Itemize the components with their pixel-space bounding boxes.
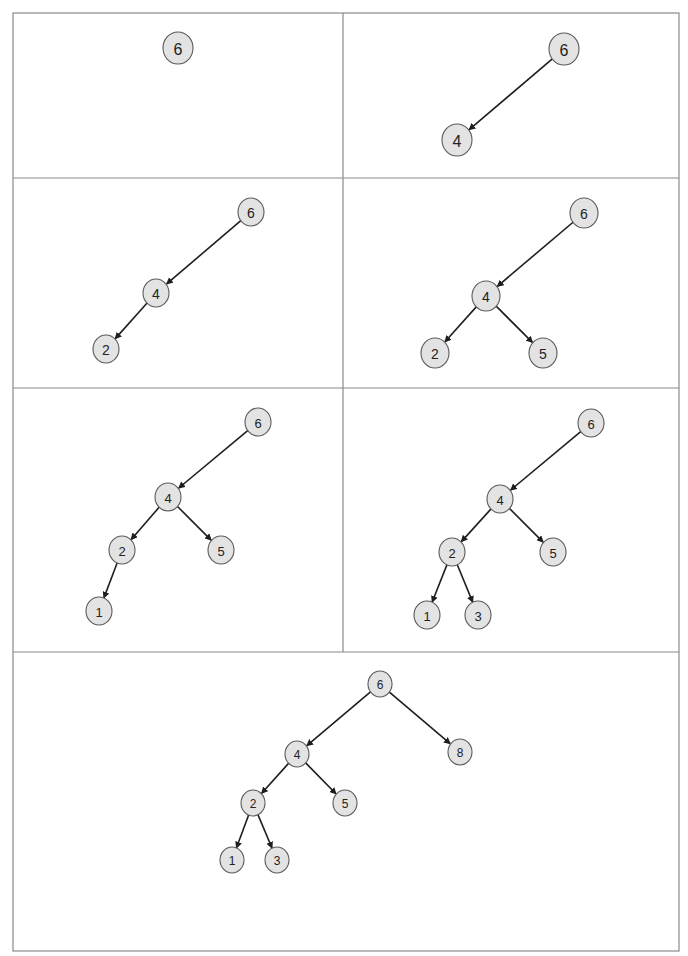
edge-4-to-2 <box>461 509 491 542</box>
node-label: 2 <box>431 346 439 362</box>
tree-node-6: 6 <box>368 671 392 697</box>
tree-node-4: 4 <box>442 124 472 156</box>
tree-node-1: 1 <box>86 597 112 625</box>
node-label: 6 <box>560 42 569 59</box>
node-label: 6 <box>580 206 588 222</box>
tree-panel-step-2: 64 <box>442 33 579 156</box>
tree-node-4: 4 <box>285 741 309 767</box>
edge-6-to-4 <box>167 220 241 284</box>
tree-node-4: 4 <box>143 279 169 307</box>
edge-4-to-2 <box>262 763 289 793</box>
tree-node-6: 6 <box>570 198 598 228</box>
edge-2-to-3 <box>258 814 272 848</box>
tree-node-6: 6 <box>245 408 271 436</box>
node-label: 4 <box>294 748 301 762</box>
tree-node-4: 4 <box>472 281 500 311</box>
node-label: 3 <box>274 854 281 868</box>
tree-panel-step-7: 6482513 <box>220 671 472 873</box>
tree-node-5: 5 <box>208 536 234 564</box>
node-label: 4 <box>164 491 171 506</box>
tree-node-1: 1 <box>220 847 244 873</box>
edge-2-to-3 <box>457 564 473 602</box>
edge-4-to-2 <box>131 507 159 540</box>
node-label: 8 <box>457 746 464 760</box>
tree-node-6: 6 <box>163 32 193 64</box>
tree-node-3: 3 <box>265 847 289 873</box>
node-label: 6 <box>587 417 594 432</box>
edge-6-to-4 <box>497 222 573 286</box>
node-label: 1 <box>423 609 430 624</box>
edge-6-to-4 <box>511 431 581 490</box>
tree-node-1: 1 <box>414 601 440 629</box>
node-label: 2 <box>448 546 455 561</box>
tree-node-2: 2 <box>421 338 449 368</box>
edge-4-to-2 <box>115 303 147 339</box>
edge-4-to-5 <box>496 306 533 343</box>
tree-node-2: 2 <box>93 335 119 363</box>
node-label: 6 <box>247 205 255 221</box>
node-label: 5 <box>539 346 547 362</box>
tree-node-2: 2 <box>439 538 465 566</box>
node-label: 4 <box>453 133 462 150</box>
tree-node-6: 6 <box>549 33 579 65</box>
bst-insertion-diagram: 6646426425642516425136482513 <box>0 0 688 956</box>
tree-node-2: 2 <box>241 790 265 816</box>
node-label: 4 <box>152 286 160 302</box>
tree-node-3: 3 <box>465 601 491 629</box>
node-label: 2 <box>250 797 257 811</box>
edge-2-to-1 <box>104 562 118 598</box>
tree-node-5: 5 <box>540 538 566 566</box>
edge-6-to-4 <box>307 692 371 746</box>
edge-6-to-4 <box>469 59 552 130</box>
tree-node-8: 8 <box>448 739 472 765</box>
edge-6-to-4 <box>179 430 248 488</box>
node-label: 1 <box>95 605 102 620</box>
tree-node-4: 4 <box>487 485 513 513</box>
node-label: 6 <box>174 41 183 58</box>
node-label: 5 <box>549 546 556 561</box>
tree-panel-step-5: 64251 <box>86 408 271 625</box>
node-label: 6 <box>254 416 261 431</box>
tree-node-6: 6 <box>578 409 604 437</box>
tree-node-6: 6 <box>238 198 264 226</box>
node-label: 4 <box>496 493 503 508</box>
edge-4-to-5 <box>509 508 543 542</box>
node-label: 3 <box>474 609 481 624</box>
node-label: 1 <box>229 854 236 868</box>
node-label: 2 <box>118 544 125 559</box>
edge-2-to-1 <box>237 814 249 848</box>
edge-4-to-5 <box>177 506 211 540</box>
tree-node-2: 2 <box>109 536 135 564</box>
tree-node-4: 4 <box>155 483 181 511</box>
edge-4-to-5 <box>305 763 336 794</box>
tree-panel-step-4: 6425 <box>421 198 598 368</box>
tree-node-5: 5 <box>529 338 557 368</box>
tree-panel-step-3: 642 <box>93 198 264 363</box>
edge-4-to-2 <box>445 306 477 341</box>
node-label: 5 <box>342 797 349 811</box>
tree-node-5: 5 <box>333 790 357 816</box>
tree-panel-step-1: 6 <box>163 32 193 64</box>
tree-panel-step-6: 642513 <box>414 409 604 629</box>
tree-panels: 6646426425642516425136482513 <box>86 32 604 873</box>
node-label: 6 <box>377 678 384 692</box>
node-label: 4 <box>482 289 490 305</box>
edge-6-to-8 <box>389 692 450 744</box>
node-label: 5 <box>217 544 224 559</box>
edge-2-to-1 <box>432 564 447 602</box>
node-label: 2 <box>102 342 110 358</box>
